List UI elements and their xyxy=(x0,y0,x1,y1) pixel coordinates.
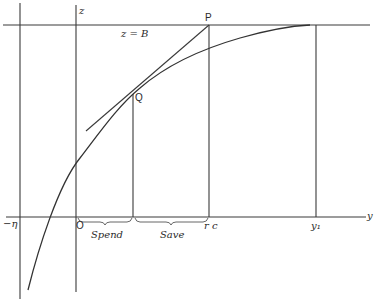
point-p-label: P xyxy=(205,13,212,23)
rc-label: r c xyxy=(204,221,218,231)
y1-label: y₁ xyxy=(311,221,321,231)
z-axis-label: z xyxy=(79,6,84,16)
tangent-line xyxy=(86,25,209,131)
spend-brace xyxy=(78,218,132,225)
neg-eta-label: −η xyxy=(3,219,17,229)
origin-label: O xyxy=(76,221,84,231)
budget-line-label: z = B xyxy=(121,29,148,39)
save-brace xyxy=(135,218,208,225)
spend-label: Spend xyxy=(91,230,123,240)
utility-curve xyxy=(28,25,310,290)
y-axis-label: y xyxy=(367,211,373,221)
save-label: Save xyxy=(160,230,184,240)
point-q-label: Q xyxy=(135,93,143,103)
diagram-canvas xyxy=(0,0,376,299)
